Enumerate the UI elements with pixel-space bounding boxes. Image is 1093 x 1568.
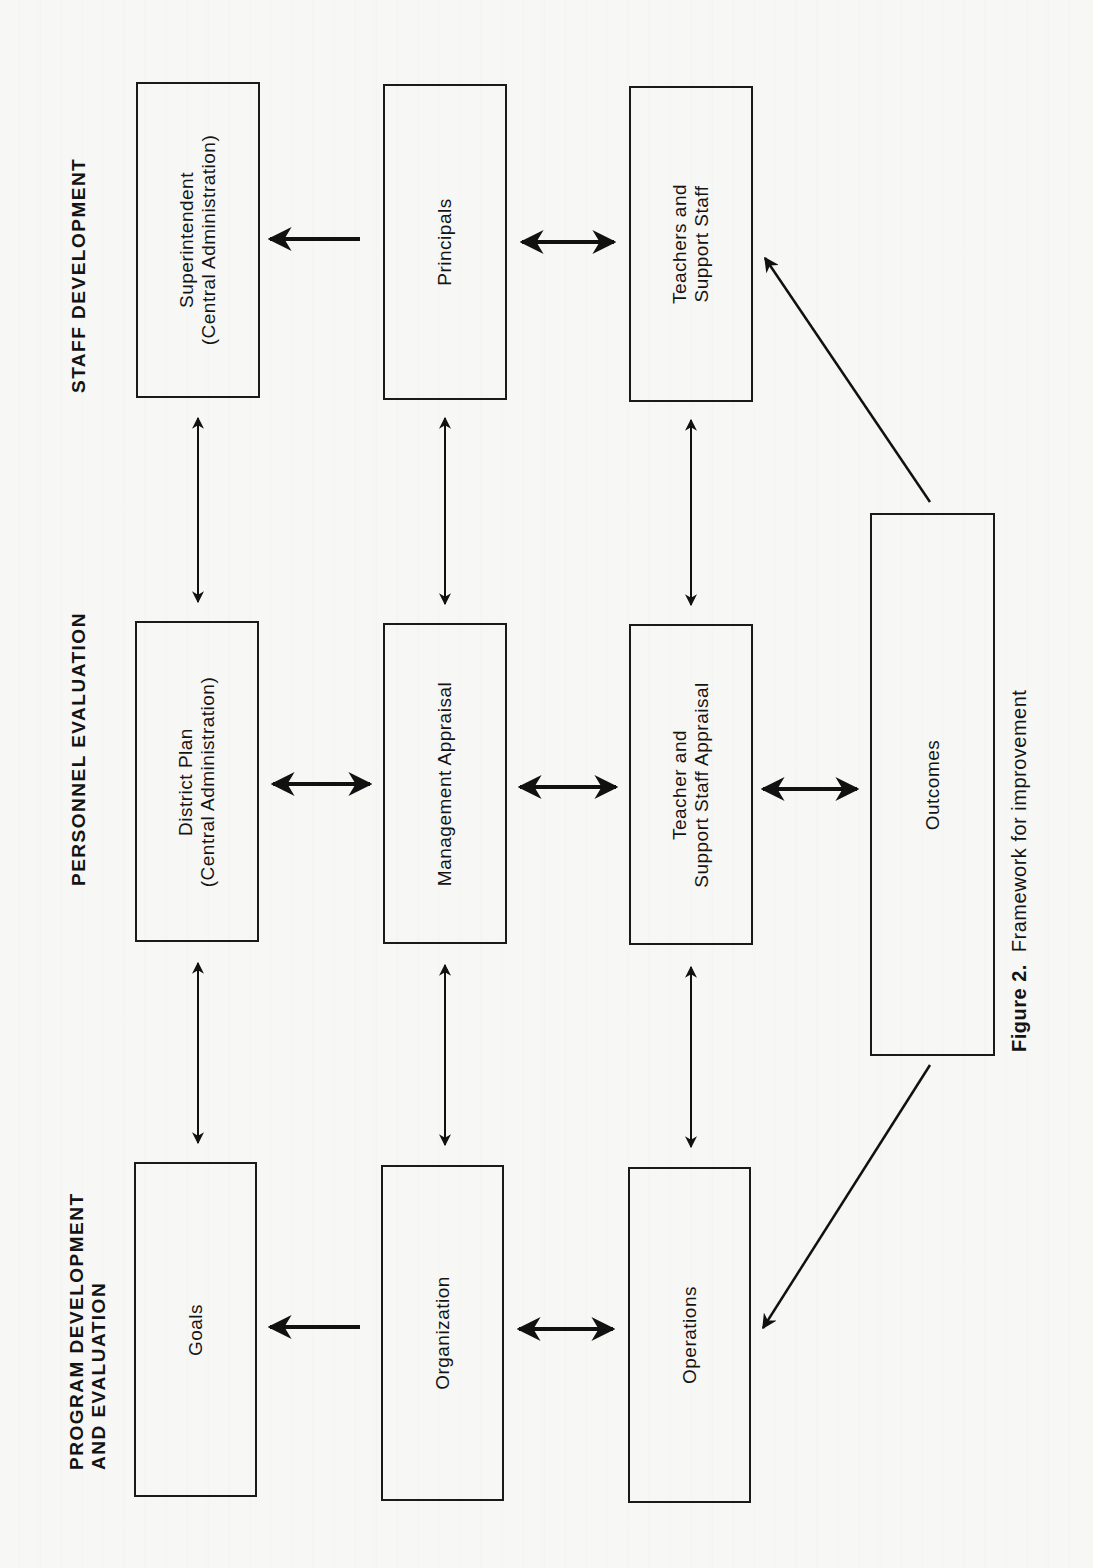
arrow-outcomes-to-teachers xyxy=(765,258,930,502)
scanned-page: STAFF DEVELOPMENT PERSONNEL EVALUATION P… xyxy=(0,0,1093,1568)
connector-arrows xyxy=(0,0,1093,1568)
arrow-outcomes-to-operations xyxy=(763,1065,930,1328)
